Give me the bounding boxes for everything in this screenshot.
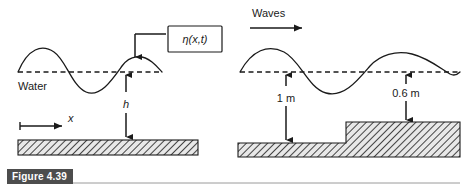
caption-label: Figure 4.39: [12, 171, 67, 182]
figure-container: Water η(x,t) h x Waves: [0, 0, 464, 190]
deep-depth-label: 1 m: [277, 92, 295, 104]
eta-label: η(x,t): [182, 33, 207, 45]
depth-label-h: h: [123, 98, 129, 110]
water-label: Water: [18, 80, 47, 92]
x-axis-label: x: [67, 112, 74, 124]
seabed-left: [18, 140, 198, 155]
figure-illustration: Water η(x,t) h x Waves: [0, 0, 464, 190]
shallow-depth-label: 0.6 m: [392, 87, 420, 99]
waves-label: Waves: [252, 7, 286, 19]
